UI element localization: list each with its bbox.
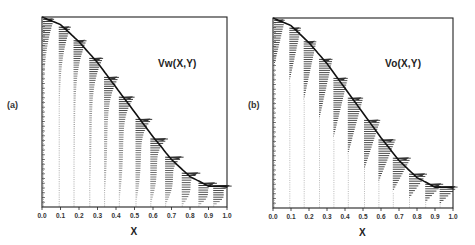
x-tick-label: 0.5 bbox=[358, 213, 367, 220]
x-tick-label: 0.1 bbox=[56, 212, 65, 219]
x-tick-label: 0.3 bbox=[93, 212, 102, 219]
x-tick-label: 0.5 bbox=[130, 212, 139, 219]
x-tick-label: 0.4 bbox=[340, 213, 349, 220]
x-tick-label: 0.8 bbox=[185, 212, 194, 219]
plot-b: 0.00.10.20.30.40.50.60.70.80.91.0 bbox=[268, 18, 457, 220]
x-tick-label: 0.0 bbox=[268, 213, 277, 220]
x-tick-label: 1.0 bbox=[222, 212, 231, 219]
x-tick-label: 0.2 bbox=[74, 212, 83, 219]
x-tick-label: 0.0 bbox=[37, 212, 46, 219]
x-tick-label: 0.7 bbox=[167, 212, 176, 219]
x-tick-label: 0.3 bbox=[322, 213, 331, 220]
x-tick-label: 0.4 bbox=[111, 212, 120, 219]
boundary-curve bbox=[273, 18, 453, 187]
x-tick-label: 0.9 bbox=[430, 213, 439, 220]
boundary-curve bbox=[42, 17, 227, 186]
x-tick-label: 0.7 bbox=[394, 213, 403, 220]
x-tick-label: 0.6 bbox=[376, 213, 385, 220]
x-tick-label: 0.2 bbox=[304, 213, 313, 220]
x-tick-label: 1.0 bbox=[448, 213, 457, 220]
x-tick-label: 0.8 bbox=[412, 213, 421, 220]
x-tick-label: 0.1 bbox=[286, 213, 295, 220]
x-tick-label: 0.6 bbox=[148, 212, 157, 219]
x-tick-label: 0.9 bbox=[204, 212, 213, 219]
plot-a: 0.00.10.20.30.40.50.60.70.80.91.0 bbox=[37, 17, 231, 219]
vector-field-plots: 0.00.10.20.30.40.50.60.70.80.91.00.00.10… bbox=[0, 0, 475, 245]
